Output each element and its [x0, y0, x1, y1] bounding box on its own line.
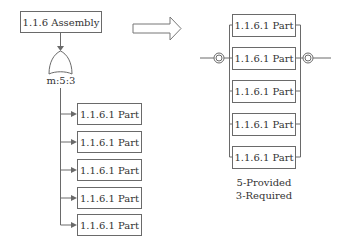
right-part-box: 1.1.6.1 Part — [232, 113, 296, 136]
part-label: 1.1.6.1 Part — [80, 137, 139, 148]
left-part-box: 1.1.6.1 Part — [77, 214, 142, 236]
gate-label: m:5:3 — [44, 75, 78, 86]
right-part-box: 1.1.6.1 Part — [232, 146, 296, 169]
output-node-icon — [303, 53, 313, 63]
part-label: 1.1.6.1 Part — [80, 220, 139, 231]
assembly-box: 1.1.6 Assembly — [20, 11, 102, 33]
part-label: 1.1.6.1 Part — [80, 165, 139, 176]
part-label: 1.1.6.1 Part — [234, 86, 293, 97]
hollow-right-arrow-icon — [133, 17, 181, 40]
part-label: 1.1.6.1 Part — [234, 119, 293, 130]
voting-gate-icon — [49, 51, 72, 74]
required-caption: 3-Required — [232, 190, 296, 201]
part-label: 1.1.6.1 Part — [234, 20, 293, 31]
left-part-box: 1.1.6.1 Part — [77, 159, 142, 181]
right-part-box: 1.1.6.1 Part — [232, 14, 296, 37]
right-part-box: 1.1.6.1 Part — [232, 80, 296, 103]
part-label: 1.1.6.1 Part — [80, 109, 139, 120]
part-label: 1.1.6.1 Part — [80, 193, 139, 204]
left-part-box: 1.1.6.1 Part — [77, 131, 142, 153]
input-node-icon — [214, 53, 224, 63]
left-part-box: 1.1.6.1 Part — [77, 103, 142, 125]
right-part-box: 1.1.6.1 Part — [232, 47, 296, 70]
provided-caption: 5-Provided — [232, 177, 296, 188]
left-part-box: 1.1.6.1 Part — [77, 187, 142, 209]
assembly-label: 1.1.6 Assembly — [23, 17, 100, 28]
part-label: 1.1.6.1 Part — [234, 53, 293, 64]
part-label: 1.1.6.1 Part — [234, 152, 293, 163]
